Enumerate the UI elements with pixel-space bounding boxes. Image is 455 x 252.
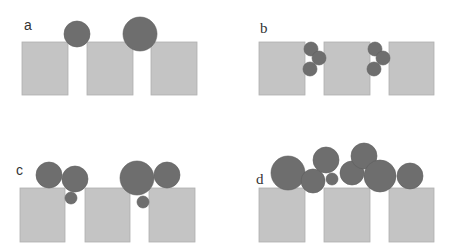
panel-b: b (259, 20, 434, 95)
panel-d: d (256, 143, 434, 242)
particle-circle (36, 162, 62, 188)
particle-circle (120, 161, 154, 195)
substrate-block (389, 188, 434, 242)
particle-circle (123, 17, 157, 51)
particle-circle (271, 156, 305, 190)
particle-circle (312, 51, 326, 65)
particle-circle (64, 21, 90, 47)
substrate-block (259, 42, 305, 95)
particle-circle (367, 62, 381, 76)
substrate-block (324, 42, 370, 95)
particle-circle (376, 51, 390, 65)
particle-circle (137, 196, 149, 208)
panel-label: d (256, 171, 264, 187)
particle-circle (326, 173, 338, 185)
particle-circle (62, 166, 88, 192)
substrate-block (389, 42, 434, 95)
particle-circle (154, 162, 180, 188)
particle-circle (397, 163, 423, 189)
panel-label: a (24, 17, 32, 33)
particle-circle (364, 160, 396, 192)
panel-c: c (16, 161, 195, 242)
substrate-block (324, 188, 370, 242)
substrate-block (149, 188, 195, 242)
substrate-block (151, 42, 197, 95)
substrate-block (85, 188, 130, 242)
substrate-block (259, 188, 305, 242)
panel-a: a (22, 17, 197, 95)
substrate-block (22, 42, 68, 95)
panel-label: b (260, 20, 268, 36)
particle-circle (303, 62, 317, 76)
particle-circle (313, 147, 339, 173)
particle-circle (65, 192, 77, 204)
panel-label: c (16, 162, 23, 178)
particle-deposition-diagram: a b c d (0, 0, 455, 252)
particle-circle (301, 169, 325, 193)
substrate-block (20, 188, 65, 242)
substrate-block (87, 42, 133, 95)
